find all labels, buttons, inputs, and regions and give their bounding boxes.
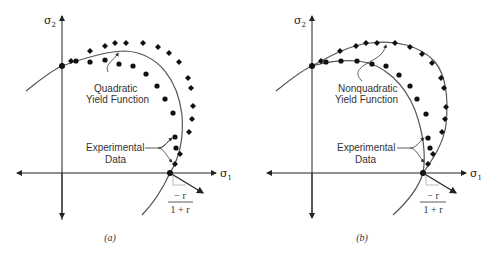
slope-denominator-b: 1 + r bbox=[424, 204, 444, 215]
caption-a: (a) bbox=[104, 232, 116, 244]
slope-numerator-a: − r bbox=[174, 190, 186, 201]
caption-b: (b) bbox=[356, 232, 368, 244]
experimental-label-a-line1: Experimental bbox=[86, 142, 144, 153]
sigma2-label-b: σ2 bbox=[294, 14, 306, 29]
quadratic-yield-curve bbox=[26, 51, 182, 215]
curve-pointer-a bbox=[107, 53, 118, 72]
experimental-label-b-line1: Experimental bbox=[337, 142, 395, 153]
nonquadratic-label-line2: Yield Function bbox=[335, 94, 398, 105]
yield-function-figure: σ2 σ1 bbox=[0, 0, 497, 257]
data-pointer-b bbox=[397, 138, 424, 148]
sigma1-label-a: σ1 bbox=[220, 167, 232, 182]
sigma2-label-a: σ2 bbox=[44, 14, 56, 29]
experimental-label-b-line2: Data bbox=[355, 154, 377, 165]
slope-numerator-b: − r bbox=[427, 190, 439, 201]
axes-b bbox=[267, 16, 466, 218]
axes-a bbox=[17, 16, 216, 220]
nonquadratic-label-line1: Nonquadratic bbox=[338, 83, 397, 94]
experimental-label-a-line2: Data bbox=[105, 154, 127, 165]
slope-denominator-a: 1 + r bbox=[171, 204, 191, 215]
sigma1-label-b: σ1 bbox=[470, 167, 482, 182]
quadratic-label-line2: Yield Function bbox=[86, 94, 149, 105]
panel-a: σ2 σ1 bbox=[17, 14, 232, 244]
panel-b: σ2 σ1 bbox=[267, 14, 482, 244]
quadratic-label-line1: Quadratic bbox=[94, 83, 137, 94]
